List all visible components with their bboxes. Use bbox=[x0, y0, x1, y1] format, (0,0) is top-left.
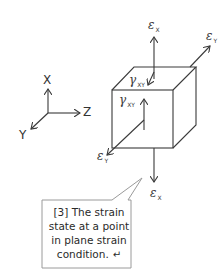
strain-arrows bbox=[107, 37, 210, 182]
callout-line-4: condition.↵ bbox=[44, 247, 134, 262]
gamma-symbol: γ bbox=[129, 73, 136, 87]
epsilon-y-right-label: εY bbox=[206, 30, 217, 44]
epsilon-x-top-label: εX bbox=[148, 19, 160, 33]
callout-line-4-text: condition. bbox=[57, 248, 109, 260]
callout-caption: [3] The strain state at a point in plane… bbox=[44, 205, 134, 262]
gamma-xy-top-label: γXY bbox=[129, 74, 145, 88]
subscript: Y bbox=[104, 157, 108, 164]
epsilon-y-left-label: εY bbox=[97, 150, 108, 164]
x-axis-label: X bbox=[43, 74, 51, 86]
epsilon-y-right-arrow bbox=[190, 46, 210, 67]
gamma-xy-top-arrow bbox=[148, 72, 154, 85]
callout-line-3: in plane strain bbox=[44, 233, 134, 247]
y-axis-arrow bbox=[31, 113, 48, 129]
epsilon-x-bottom-label: εX bbox=[150, 187, 162, 201]
epsilon-y-left-arrow bbox=[107, 120, 144, 155]
epsilon-symbol: ε bbox=[148, 18, 154, 32]
coordinate-axes bbox=[31, 89, 80, 129]
return-icon: ↵ bbox=[113, 249, 121, 260]
callout-line-1: [3] The strain bbox=[44, 205, 134, 219]
gamma-xy-front-label: γXY bbox=[119, 94, 135, 108]
y-axis-label: Y bbox=[19, 129, 26, 141]
subscript: X bbox=[157, 194, 161, 201]
epsilon-symbol: ε bbox=[97, 149, 103, 163]
gamma-symbol: γ bbox=[119, 93, 126, 107]
z-axis-label: Z bbox=[83, 106, 91, 118]
epsilon-symbol: ε bbox=[206, 29, 212, 43]
subscript: XY bbox=[137, 81, 145, 88]
epsilon-symbol: ε bbox=[150, 186, 156, 200]
callout-line-2: state at a point bbox=[44, 219, 134, 233]
subscript: X bbox=[155, 26, 159, 33]
subscript: XY bbox=[127, 101, 135, 108]
subscript: Y bbox=[213, 37, 217, 44]
